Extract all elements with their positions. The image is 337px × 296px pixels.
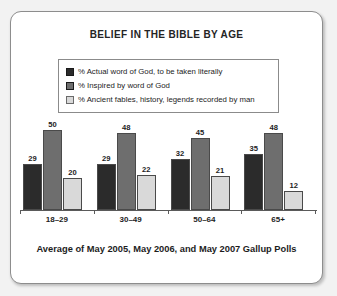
bar [137, 175, 156, 210]
bar-column: 20 [63, 122, 82, 210]
x-axis-tick [20, 210, 21, 214]
bar-value-label: 29 [23, 155, 42, 163]
legend-label-series-2: % Inspired by word of God [78, 82, 170, 90]
x-axis-tick-label: 30–49 [94, 216, 168, 224]
bar-value-label: 21 [211, 167, 230, 175]
x-axis-tick-label: 18–29 [20, 216, 94, 224]
bar [63, 178, 82, 210]
x-axis-tick-label: 50–64 [168, 216, 242, 224]
bar-value-label: 22 [137, 166, 156, 174]
bar-value-label: 35 [244, 145, 263, 153]
bar-column: 22 [137, 122, 156, 210]
bar-column: 29 [23, 122, 42, 210]
chart-legend: % Actual word of God, to be taken litera… [58, 59, 279, 113]
bar-group: 295020 [20, 122, 94, 210]
x-axis-tick [241, 210, 242, 214]
legend-label-series-1: % Actual word of God, to be taken litera… [78, 68, 222, 76]
bar-value-label: 50 [43, 121, 62, 129]
bar [244, 154, 263, 210]
chart-frame: BELIEF IN THE BIBLE BY AGE % Actual word… [10, 11, 323, 284]
legend-swatch-series-1 [66, 68, 74, 76]
x-axis-tick [168, 210, 169, 214]
legend-label-series-3: % Ancient fables, history, legends recor… [78, 96, 255, 104]
bar [117, 133, 136, 210]
bar-value-label: 20 [63, 169, 82, 177]
bar-column: 35 [244, 122, 263, 210]
bar [211, 176, 230, 210]
x-axis-tick [94, 210, 95, 214]
bar-value-label: 48 [264, 124, 283, 132]
bar-column: 29 [97, 122, 116, 210]
bar [264, 133, 283, 210]
bar-column: 48 [117, 122, 136, 210]
bar-value-label: 45 [191, 129, 210, 137]
bar-column: 50 [43, 122, 62, 210]
bar [23, 164, 42, 210]
bar-column: 32 [171, 122, 190, 210]
x-axis-tick [315, 210, 316, 214]
bar [97, 164, 116, 210]
bar-value-label: 29 [97, 155, 116, 163]
bar [284, 191, 303, 210]
bar-column: 12 [284, 122, 303, 210]
bar-column: 48 [264, 122, 283, 210]
bar [43, 130, 62, 210]
bar-column: 21 [211, 122, 230, 210]
bar-value-label: 32 [171, 150, 190, 158]
legend-item: % Ancient fables, history, legends recor… [66, 93, 272, 107]
bar-value-label: 48 [117, 124, 136, 132]
legend-item: % Actual word of God, to be taken litera… [66, 65, 272, 79]
x-axis-tick-label: 65+ [241, 216, 315, 224]
x-axis-line [20, 210, 317, 211]
chart-footer-note: Average of May 2005, May 2006, and May 2… [11, 244, 322, 254]
bar-group: 324521 [168, 122, 242, 210]
bar-column: 45 [191, 122, 210, 210]
chart-title: BELIEF IN THE BIBLE BY AGE [11, 29, 322, 40]
bar [191, 138, 210, 210]
legend-swatch-series-2 [66, 82, 74, 90]
legend-item: % Inspired by word of God [66, 79, 272, 93]
plot-area: 295020294822324521354812 [20, 122, 315, 210]
bar-value-label: 12 [284, 182, 303, 190]
bar-group: 354812 [241, 122, 315, 210]
bar-group: 294822 [94, 122, 168, 210]
bar [171, 159, 190, 210]
legend-swatch-series-3 [66, 96, 74, 104]
